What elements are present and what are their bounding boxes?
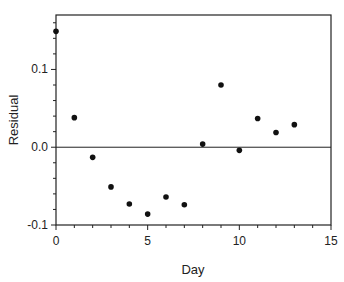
residual-scatter-chart: 051015-0.10.00.1 Day Residual xyxy=(0,0,344,282)
data-point xyxy=(72,115,78,121)
x-tick-label: 0 xyxy=(53,234,60,248)
data-points xyxy=(53,29,297,217)
data-point xyxy=(292,122,298,128)
y-tick-label: 0.0 xyxy=(31,140,48,154)
data-point xyxy=(182,202,188,208)
data-point xyxy=(273,130,279,136)
x-axis-title: Day xyxy=(181,262,205,277)
plot-frame xyxy=(56,15,331,225)
y-tick-label: 0.1 xyxy=(31,62,48,76)
x-tick-label: 15 xyxy=(324,234,338,248)
data-point xyxy=(163,194,169,200)
y-axis-title: Residual xyxy=(6,95,21,146)
data-point xyxy=(108,184,114,190)
data-point xyxy=(90,155,96,161)
axis-ticks xyxy=(51,23,331,230)
data-point xyxy=(200,141,206,147)
data-point xyxy=(127,201,133,207)
y-tick-label: -0.1 xyxy=(27,218,48,232)
x-tick-label: 10 xyxy=(233,234,247,248)
data-point xyxy=(145,211,151,217)
axis-tick-labels: 051015-0.10.00.1 xyxy=(27,62,338,248)
x-tick-label: 5 xyxy=(144,234,151,248)
data-point xyxy=(53,29,59,35)
data-point xyxy=(255,116,261,122)
data-point xyxy=(237,148,243,154)
data-point xyxy=(218,82,224,88)
